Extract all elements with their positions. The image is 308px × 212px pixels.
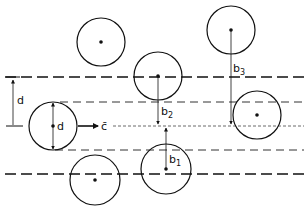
label-velocity: c̄ xyxy=(101,120,107,133)
sphere-bottom-left xyxy=(70,155,120,205)
label-b2: b2 xyxy=(161,105,173,120)
sphere-top-left xyxy=(77,18,125,66)
label-d-inner: d xyxy=(57,120,64,133)
sphere-right xyxy=(233,91,281,139)
collision-diagram: d d c̄ b2 b3 b1 xyxy=(0,0,308,212)
label-b3: b3 xyxy=(233,62,245,77)
label-b1: b1 xyxy=(169,153,181,168)
label-d-outer: d xyxy=(17,94,24,107)
